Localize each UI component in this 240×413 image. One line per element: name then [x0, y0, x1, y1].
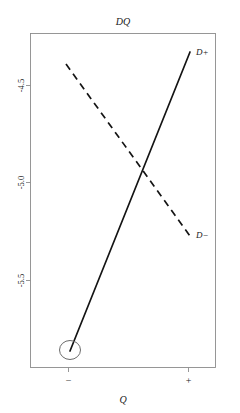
y-tick-label-0: -4.5: [16, 79, 26, 92]
interaction-plot-svg: DQ -4.5 -5.0 -5.5 − + Q D+ D−: [0, 0, 240, 413]
series-label-d-minus: D−: [195, 230, 209, 240]
series-label-d-plus: D+: [195, 47, 209, 57]
chart-title: DQ: [115, 16, 131, 27]
x-tick-label-1: +: [186, 375, 192, 386]
y-tick-label-2: -5.5: [16, 274, 26, 287]
x-axis-label: Q: [119, 394, 127, 405]
figure-background: [0, 0, 240, 413]
chart-figure: DQ -4.5 -5.0 -5.5 − + Q D+ D−: [0, 0, 240, 413]
x-tick-label-0: −: [66, 375, 72, 386]
y-tick-label-1: -5.0: [16, 176, 26, 189]
